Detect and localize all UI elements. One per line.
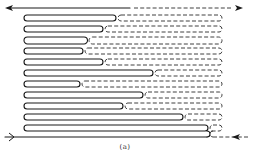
dashed-loop: [210, 125, 222, 131]
solid-loop: [24, 114, 183, 120]
solid-loop: [24, 125, 208, 131]
solid-loop: [24, 15, 116, 21]
dashed-loop: [89, 37, 222, 44]
meander-diagram: [0, 0, 255, 155]
dashed-loop: [105, 26, 222, 32]
solid-loop: [24, 48, 83, 54]
solid-meander-path: [5, 8, 210, 137]
solid-loop: [24, 70, 153, 76]
dashed-meander-path: [82, 8, 250, 137]
arrows: [5, 5, 243, 141]
dashed-loop: [155, 70, 222, 76]
figure-caption: (a): [110, 143, 140, 151]
solid-loop: [24, 81, 80, 87]
solid-loop: [24, 103, 123, 109]
solid-loop: [24, 26, 103, 32]
bottom-solid-cap: [207, 131, 210, 137]
dashed-loop: [125, 103, 222, 109]
dashed-loop: [105, 59, 222, 65]
dashed-loop: [145, 92, 222, 98]
arrow-right-icon: [235, 5, 243, 11]
dashed-loop: [82, 81, 222, 87]
solid-loop: [24, 59, 103, 65]
dashed-loop: [118, 15, 222, 21]
solid-loop: [24, 92, 143, 98]
dashed-loop: [85, 48, 222, 54]
solid-loop: [24, 37, 88, 44]
dashed-loop: [185, 114, 222, 120]
